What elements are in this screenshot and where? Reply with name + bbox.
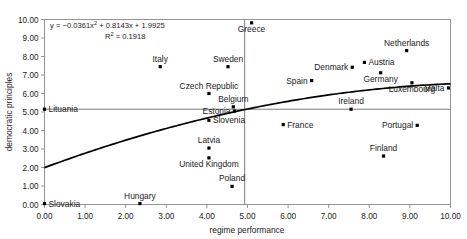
x-tick-label: 7.00: [321, 212, 337, 221]
x-tick-label: 3.00: [158, 212, 174, 221]
y-tick-label: 0.00: [23, 201, 39, 210]
point-label: Slovakia: [49, 199, 81, 209]
data-point: Poland: [219, 173, 245, 188]
point-marker: [232, 105, 235, 108]
point-label: Portugal: [382, 120, 413, 130]
data-point: Slovakia: [43, 199, 81, 209]
point-marker: [43, 108, 46, 111]
x-tick-label: 2.00: [118, 212, 134, 221]
point-marker: [416, 124, 419, 127]
data-point: Germany: [363, 71, 398, 84]
r-squared-label: R2 = 0.1918: [105, 31, 146, 41]
point-label: Czech Republic: [180, 81, 239, 91]
y-tick-label: 9.00: [23, 34, 39, 43]
point-label: Sweden: [213, 54, 244, 64]
point-label: Austria: [368, 57, 394, 67]
data-point: Sweden: [213, 54, 244, 69]
y-tick-label: 1.00: [23, 182, 39, 191]
point-label: Spain: [286, 76, 308, 86]
y-axis-title: democratic principles: [4, 73, 14, 152]
data-point: France: [282, 120, 314, 130]
y-tick-label: 7.00: [23, 71, 39, 80]
point-label: Denmark: [314, 62, 349, 72]
point-label: Hungary: [124, 191, 156, 201]
point-label: Ireland: [338, 96, 364, 106]
data-point: Slovenia: [207, 115, 245, 125]
point-marker: [226, 65, 229, 68]
data-point: Portugal: [382, 120, 419, 130]
point-marker: [207, 146, 210, 149]
data-point: Italy: [153, 54, 169, 69]
point-marker: [207, 92, 210, 95]
point-marker: [310, 79, 313, 82]
data-points: LituaniaSlovakiaHungaryItalySwedenCzech …: [43, 21, 450, 208]
point-marker: [363, 61, 366, 64]
point-marker: [138, 202, 141, 205]
x-tick-label: 8.00: [361, 212, 377, 221]
y-tick-label: 4.00: [23, 127, 39, 136]
point-marker: [233, 109, 236, 112]
data-point: Lituania: [43, 104, 78, 114]
point-label: Poland: [219, 173, 245, 183]
data-point: Ireland: [338, 96, 364, 111]
point-marker: [447, 86, 450, 89]
point-marker: [159, 65, 162, 68]
point-marker: [349, 108, 352, 111]
x-tick-label: 1.00: [77, 212, 93, 221]
x-tick-label: 4.00: [199, 212, 215, 221]
point-label: Lituania: [49, 104, 79, 114]
point-label: Slovenia: [213, 115, 245, 125]
data-point: Greece: [238, 21, 266, 34]
point-label: Malta: [424, 83, 445, 93]
point-marker: [405, 49, 408, 52]
x-tick-label: 9.00: [402, 212, 418, 221]
y-tick-label: 2.00: [23, 164, 39, 173]
data-point: Finland: [370, 143, 398, 158]
point-label: Italy: [153, 54, 169, 64]
y-tick-label: 6.00: [23, 90, 39, 99]
y-tick-label: 8.00: [23, 53, 39, 62]
point-label: Germany: [363, 74, 398, 84]
y-tick-label: 3.00: [23, 145, 39, 154]
point-marker: [207, 119, 210, 122]
x-tick-label: 5.00: [240, 212, 256, 221]
point-marker: [282, 123, 285, 126]
point-label: Latvia: [198, 135, 221, 145]
point-marker: [351, 66, 354, 69]
data-point: Denmark: [314, 62, 354, 72]
y-tick-label: 5.00: [23, 108, 39, 117]
axis-ticks: [41, 20, 451, 209]
point-marker: [382, 154, 385, 157]
x-axis-title: regime performance: [210, 225, 285, 235]
data-point: Netherlands: [384, 38, 429, 53]
y-tick-label: 10.00: [18, 16, 39, 25]
regression-equation: y = −0.0361x2 + 0.8143x + 1.9925: [50, 20, 165, 30]
chart-canvas: LituaniaSlovakiaHungaryItalySwedenCzech …: [0, 0, 467, 239]
scatter-chart: LituaniaSlovakiaHungaryItalySwedenCzech …: [0, 0, 467, 239]
data-point: United Kingdom: [179, 156, 239, 169]
point-label: United Kingdom: [179, 159, 239, 169]
point-marker: [43, 202, 46, 205]
data-point: Spain: [286, 76, 313, 86]
data-point: Austria: [363, 57, 395, 67]
x-tick-label: 10.00: [440, 212, 461, 221]
point-label: Finland: [370, 143, 398, 153]
point-marker: [230, 185, 233, 188]
x-tick-label: 0.00: [37, 212, 53, 221]
point-label: France: [287, 120, 313, 130]
x-tick-label: 6.00: [280, 212, 296, 221]
data-point: Latvia: [198, 135, 221, 150]
point-label: Greece: [238, 24, 266, 34]
point-label: Netherlands: [384, 38, 429, 48]
data-point: Hungary: [124, 191, 156, 206]
point-label: Belgium: [218, 94, 248, 104]
